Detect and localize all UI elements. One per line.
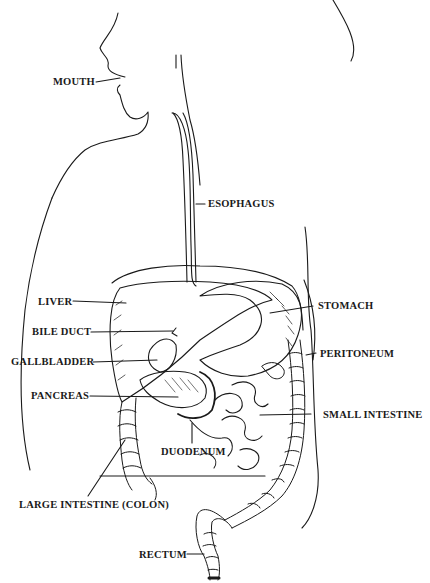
digestive-system-diagram: MOUTH ESOPHAGUS LIVER STOMACH BILE DUCT … [0, 0, 430, 583]
stomach-shape [200, 281, 301, 376]
leader-bile-duct [91, 331, 173, 332]
gallbladder-shape [148, 339, 176, 372]
leader-stomach [270, 306, 313, 313]
label-esophagus: ESOPHAGUS [208, 198, 275, 210]
leader-gallbladder [93, 360, 157, 362]
label-gallbladder: GALLBLADDER [11, 356, 94, 368]
leader-small-intestine [260, 414, 311, 415]
pancreas-shading [165, 378, 198, 392]
label-stomach: STOMACH [318, 300, 373, 312]
leader-lines [73, 78, 316, 554]
leader-mouth [96, 78, 120, 82]
stomach-shading [270, 292, 294, 346]
label-pancreas: PANCREAS [31, 390, 89, 402]
descending-colon [225, 340, 305, 528]
ascending-colon [118, 398, 156, 500]
leader-large-intestine [88, 440, 125, 496]
leader-liver [73, 301, 126, 303]
sigmoid-rectum [196, 510, 232, 580]
liver-shading [114, 301, 125, 380]
label-liver: LIVER [38, 296, 72, 308]
leader-peritoneum [306, 353, 316, 355]
label-rectum: RECTUM [139, 549, 187, 561]
label-duodenum: DUODENUM [161, 446, 226, 458]
diaphragm-outline [112, 266, 303, 330]
leader-pancreas [90, 396, 178, 397]
esophagus-tube [173, 113, 196, 282]
label-large-intestine: LARGE INTESTINE (COLON) [19, 499, 169, 511]
duodenum-shape [178, 372, 215, 418]
label-mouth: MOUTH [53, 76, 95, 88]
label-peritoneum: PERITONEUM [320, 348, 394, 360]
bile-duct-mark [172, 328, 177, 336]
label-bile-duct: BILE DUCT [32, 326, 91, 338]
label-small-intestine: SMALL INTESTINE [323, 409, 423, 421]
